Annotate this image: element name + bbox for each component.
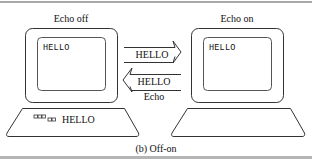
arrow-right-label: HELLO	[136, 49, 169, 60]
left-keyboard-text: HELLO	[62, 114, 95, 125]
right-screen-text: HELLO	[209, 43, 236, 53]
right-keyboard	[172, 109, 305, 137]
right-terminal-title: Echo on	[220, 13, 253, 24]
right-monitor	[192, 29, 284, 103]
bottom-rule	[0, 156, 312, 159]
arrow-left-sublabel: Echo	[144, 91, 165, 102]
left-monitor	[26, 29, 118, 103]
arrow-left-label: HELLO	[138, 76, 171, 87]
left-screen-text: HELLO	[43, 43, 70, 53]
keyboard-keys-icon	[34, 115, 56, 121]
figure-caption: (b) Off-on	[135, 143, 176, 154]
left-terminal-title: Echo off	[54, 13, 89, 24]
